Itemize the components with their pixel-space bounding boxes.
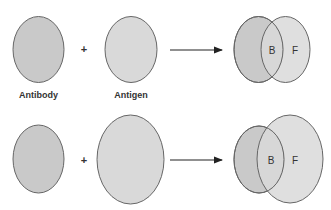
plus-sign: + xyxy=(81,154,87,166)
complex-venn: B F xyxy=(234,115,323,203)
antibody-ellipse xyxy=(13,17,64,83)
complex-venn: B F xyxy=(234,17,310,83)
antigen-ellipse xyxy=(105,17,157,83)
row-2: + B F xyxy=(13,115,323,204)
free-label: F xyxy=(292,155,298,166)
antibody-antigen-diagram: + Antibody Antigen B F + B xyxy=(0,0,331,210)
bound-label: B xyxy=(268,155,275,166)
free-label: F xyxy=(292,45,298,56)
antigen-label: Antigen xyxy=(114,90,148,100)
antibody-label: Antibody xyxy=(19,90,58,100)
plus-sign: + xyxy=(81,43,87,55)
antigen-ellipse-large xyxy=(97,115,164,204)
bound-label: B xyxy=(269,45,276,56)
antibody-ellipse xyxy=(13,125,64,193)
row-1: + Antibody Antigen B F xyxy=(13,17,310,101)
